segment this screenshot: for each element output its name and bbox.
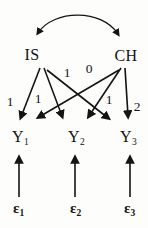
error-node-e3: ε3 — [124, 200, 135, 218]
latent-node-IS: IS — [24, 46, 39, 63]
error-node-e2: ε2 — [70, 200, 81, 218]
coef-CH-Y3: 2 — [134, 99, 141, 114]
observed-node-Y3: Y3 — [120, 128, 137, 147]
observed-node-Y1: Y1 — [12, 128, 29, 147]
coef-CH-Y2: 1 — [106, 92, 113, 107]
observed-node-Y2: Y2 — [68, 128, 85, 147]
path-arrow-CH-Y3 — [125, 68, 128, 116]
coef-IS-Y1: 1 — [7, 94, 14, 109]
latent-node-CH: CH — [114, 47, 137, 64]
path-diagram: IS CH 1 1 1 0 1 2 Y1 Y2 Y3 — [0, 0, 148, 228]
error-paths — [19, 158, 130, 197]
coef-CH-Y1: 0 — [86, 61, 93, 76]
coef-IS-Y2: 1 — [35, 91, 42, 106]
covariance-double-arrow-icon — [38, 15, 118, 34]
coef-IS-Y3: 1 — [64, 65, 71, 80]
error-node-e1: ε1 — [13, 200, 24, 218]
